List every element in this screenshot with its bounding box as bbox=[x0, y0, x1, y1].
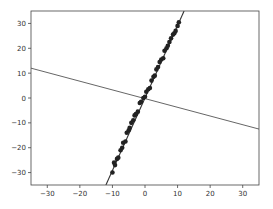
data-point bbox=[110, 170, 115, 175]
data-point bbox=[148, 86, 153, 91]
data-point bbox=[156, 65, 161, 70]
y-tick-label: 30 bbox=[17, 20, 26, 28]
data-point bbox=[143, 94, 148, 99]
data-point bbox=[136, 109, 141, 114]
data-point bbox=[173, 29, 178, 34]
y-tick-label: 10 bbox=[17, 70, 26, 78]
data-point bbox=[152, 73, 157, 78]
y-axis: −30−20−100102030 bbox=[11, 20, 31, 177]
x-tick-label: 20 bbox=[206, 190, 215, 198]
x-tick-label: −20 bbox=[72, 190, 87, 198]
data-point bbox=[177, 20, 182, 25]
data-point bbox=[123, 139, 128, 144]
y-tick-label: −10 bbox=[11, 119, 26, 127]
x-tick-label: −30 bbox=[40, 190, 55, 198]
data-point bbox=[116, 155, 121, 160]
x-axis: −30−20−100102030 bbox=[40, 185, 247, 198]
data-point bbox=[113, 163, 118, 168]
y-tick-label: −30 bbox=[11, 169, 26, 177]
data-point bbox=[131, 118, 136, 123]
x-tick-label: 0 bbox=[143, 190, 147, 198]
y-tick-label: 0 bbox=[22, 95, 26, 103]
scatter-chart: −30−20−100102030 −30−20−100102030 bbox=[0, 0, 273, 209]
y-tick-label: −20 bbox=[11, 144, 26, 152]
data-point bbox=[120, 145, 125, 150]
x-tick-label: 30 bbox=[238, 190, 247, 198]
x-tick-label: 10 bbox=[173, 190, 182, 198]
data-point bbox=[161, 56, 166, 61]
x-tick-label: −10 bbox=[105, 190, 120, 198]
y-tick-label: 20 bbox=[17, 45, 26, 53]
data-point bbox=[127, 126, 132, 131]
